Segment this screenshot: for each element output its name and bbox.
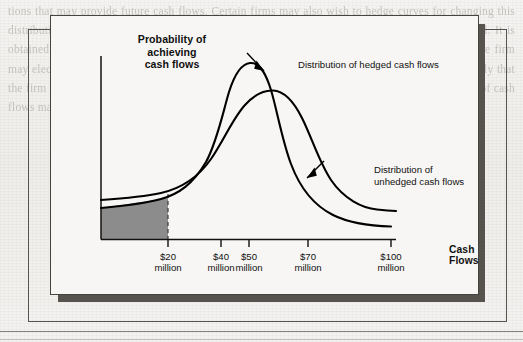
y-axis-title: Probability of achieving cash flows [113,33,231,71]
callout-unhedged-distribution: Distribution of unhedged cash flows [374,164,464,187]
x-axis-ticks [168,240,391,248]
figure-panel: Probability of achieving cash flows Cash… [50,15,479,295]
callout-unhedged-line2: unhedged cash flows [374,176,464,188]
page-rule-primary [0,331,523,332]
x-tick-label-70m: $70 million [281,251,335,274]
arrow-unhedged-callout [307,161,324,178]
x-axis-title: Cash Flows [449,244,479,266]
x-tick-label-20m: $20 million [141,251,195,274]
callout-unhedged-line1: Distribution of [374,164,464,176]
callout-hedged-distribution: Distribution of hedged cash flows [298,59,439,71]
curve-unhedged-distribution [101,90,396,211]
x-tick-label-50m: $50 million [222,251,276,274]
page-rule-secondary [0,339,523,340]
curve-hedged-distribution [101,63,391,227]
x-tick-label-100m: $100 million [364,251,418,274]
